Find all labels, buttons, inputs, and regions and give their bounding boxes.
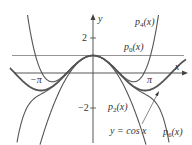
y-axis-arrow-icon bbox=[91, 14, 96, 20]
p6-arg: (x) bbox=[172, 126, 183, 137]
taylor-plot bbox=[0, 0, 192, 145]
pi-label: π bbox=[147, 75, 152, 85]
p6-label: p6(x) bbox=[163, 127, 183, 139]
p4-label: p4(x) bbox=[135, 17, 155, 29]
p0-arg: (x) bbox=[133, 41, 144, 52]
cos-label: y = cos x bbox=[110, 126, 146, 136]
x-axis-arrow-icon bbox=[182, 71, 188, 76]
y-axis-label: y bbox=[98, 14, 102, 24]
p4-arg: (x) bbox=[144, 16, 155, 27]
arrowhead-icon bbox=[155, 91, 159, 96]
x-axis-label: x bbox=[175, 62, 179, 72]
tick-label-neg2: −2 bbox=[78, 103, 89, 113]
tick-label-2: 2 bbox=[82, 33, 87, 43]
p2-label: p2(x) bbox=[108, 102, 128, 114]
neg-pi-label: −π bbox=[30, 75, 42, 85]
p2-arg: (x) bbox=[117, 101, 128, 112]
p0-label: p0(x) bbox=[124, 42, 144, 54]
